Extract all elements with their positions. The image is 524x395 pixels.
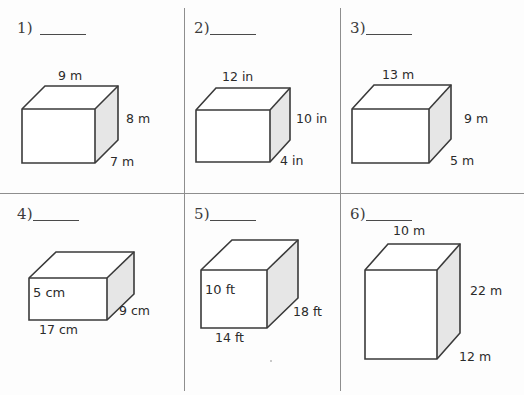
problem-number-6: 6) [350, 205, 412, 223]
worksheet-page: 1) 9 m 8 m 7 m 2) [0, 0, 524, 395]
prism-1-front-face [22, 109, 95, 163]
dimension-1-right: 8 m [126, 113, 150, 126]
problem-number-5: 5) [194, 205, 256, 223]
answer-blank-2[interactable] [210, 34, 256, 35]
problem-cell-6: 6) 10 m 22 m 12 m [340, 193, 524, 395]
dimension-4-height: 5 cm [33, 286, 65, 299]
prism-2-front-face [196, 110, 270, 162]
problem-number-4: 4) [17, 205, 79, 223]
answer-blank-5[interactable] [210, 220, 256, 221]
answer-blank-6[interactable] [366, 220, 412, 221]
prism-figure-2 [196, 86, 292, 164]
prism-svg-1 [22, 84, 120, 166]
problem-number-3: 3) [350, 19, 412, 37]
prism-svg-2 [196, 86, 292, 164]
problem-cell-2: 2) 12 in 10 in 4 in [184, 0, 340, 193]
problem-number-2: 2) [194, 19, 256, 37]
prism-figure-6 [365, 242, 462, 361]
problem-number-1-text: 1) [17, 19, 33, 37]
answer-blank-4[interactable] [33, 220, 79, 221]
dimension-5-height: 10 ft [205, 283, 235, 296]
problem-number-5-text: 5) [194, 205, 210, 223]
problem-number-4-text: 4) [17, 205, 33, 223]
prism-6-front-face [365, 270, 437, 359]
prism-svg-3 [352, 83, 453, 165]
answer-blank-3[interactable] [366, 34, 412, 35]
dimension-2-top: 12 in [222, 71, 253, 84]
dimension-3-right: 9 m [464, 113, 488, 126]
prism-figure-3 [352, 83, 453, 165]
dimension-1-depth: 7 m [110, 156, 134, 169]
dimension-2-depth: 4 in [280, 155, 303, 168]
problem-cell-3: 3) 13 m 9 m 5 m [340, 0, 524, 193]
prism-figure-1 [22, 84, 120, 166]
dimension-5-depth: 18 ft [293, 306, 322, 319]
problem-cell-5: 5) 10 ft 14 ft 18 ft [184, 193, 340, 395]
problem-number-3-text: 3) [350, 19, 366, 37]
dimension-5-bottom: 14 ft [215, 332, 244, 345]
prism-svg-6 [365, 242, 462, 361]
prism-3-front-face [352, 109, 429, 163]
dimension-3-top: 13 m [382, 69, 414, 82]
dimension-6-depth: 12 m [459, 351, 491, 364]
dimension-3-depth: 5 m [450, 155, 474, 168]
page-speck [270, 360, 272, 362]
problem-number-2-text: 2) [194, 19, 210, 37]
problem-cell-1: 1) 9 m 8 m 7 m [0, 0, 184, 193]
problem-number-1: 1) [17, 19, 86, 37]
dimension-6-right: 22 m [470, 285, 502, 298]
problem-number-6-text: 6) [350, 205, 366, 223]
dimension-4-bottom: 17 cm [39, 324, 78, 337]
problem-cell-4: 4) 5 cm 17 cm 9 cm [0, 193, 184, 395]
dimension-1-top: 9 m [58, 70, 82, 83]
dimension-4-depth: 9 cm [119, 305, 150, 318]
answer-blank-1[interactable] [40, 34, 86, 35]
dimension-6-top: 10 m [393, 225, 425, 238]
dimension-2-right: 10 in [296, 113, 327, 126]
prism-5-front-face [201, 270, 267, 328]
